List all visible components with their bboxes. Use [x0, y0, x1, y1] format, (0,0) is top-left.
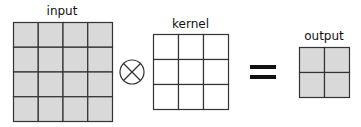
- input-cell: [63, 47, 88, 72]
- input-cell: [88, 47, 113, 72]
- input-cell: [38, 23, 63, 48]
- kernel-cell: [204, 85, 229, 110]
- output-cell: [300, 73, 325, 98]
- convolution-diagram: input kernel output: [0, 0, 361, 127]
- kernel-cell: [154, 60, 179, 85]
- input-cell: [38, 47, 63, 72]
- kernel-cell: [154, 35, 179, 60]
- kernel-cell: [179, 60, 204, 85]
- output-label: output: [304, 29, 344, 43]
- output-cell: [325, 73, 350, 98]
- input-cell: [38, 97, 63, 122]
- kernel-cell: [179, 85, 204, 110]
- input-cell: [63, 23, 88, 48]
- input-cell: [88, 97, 113, 122]
- input-cell: [88, 72, 113, 97]
- input-cell: [63, 72, 88, 97]
- kernel-cell: [204, 35, 229, 60]
- circled-times-icon: [120, 60, 144, 84]
- input-cell: [14, 47, 39, 72]
- input-cell: [14, 72, 39, 97]
- equals-icon: [250, 65, 276, 79]
- output-cell: [325, 48, 350, 73]
- input-cell: [14, 97, 39, 122]
- output-matrix: [300, 48, 350, 98]
- input-matrix: [14, 23, 113, 122]
- input-cell: [63, 97, 88, 122]
- input-cell: [14, 23, 39, 48]
- kernel-cell: [154, 85, 179, 110]
- input-cell: [88, 23, 113, 48]
- output-cell: [300, 48, 325, 73]
- kernel-cell: [204, 60, 229, 85]
- input-label: input: [47, 4, 78, 18]
- kernel-label: kernel: [172, 17, 209, 31]
- kernel-cell: [179, 35, 204, 60]
- kernel-matrix: [154, 35, 229, 110]
- input-cell: [38, 72, 63, 97]
